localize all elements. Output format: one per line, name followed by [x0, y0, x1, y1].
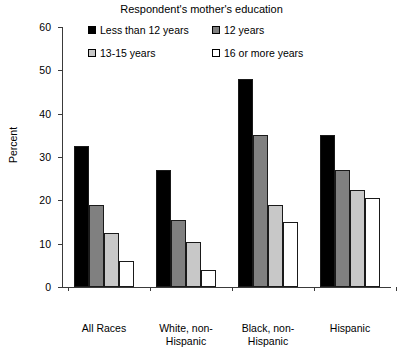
y-axis-tick: 40	[58, 114, 63, 115]
bar	[335, 170, 350, 287]
x-axis-line	[62, 287, 391, 288]
bar	[320, 135, 335, 287]
x-axis-tick	[232, 287, 233, 291]
plot-area: 0102030405060 All RacesWhite, non-Hispan…	[62, 27, 390, 287]
bar	[253, 135, 268, 287]
y-axis-tick: 60	[58, 27, 63, 28]
bar	[268, 205, 283, 287]
y-axis-tick: 30	[58, 157, 63, 158]
y-axis-tick-label: 40	[39, 108, 51, 120]
x-axis-category-label: Hispanic	[290, 322, 403, 335]
x-axis-category-label-line: Hispanic	[290, 322, 403, 335]
bar	[171, 220, 186, 287]
y-axis-tick: 0	[58, 287, 63, 288]
y-axis-tick: 20	[58, 200, 63, 201]
y-axis-tick-label: 20	[39, 194, 51, 206]
x-axis-tick	[314, 287, 315, 291]
y-axis-tick-label: 30	[39, 151, 51, 163]
y-axis-tick-label: 10	[39, 238, 51, 250]
y-axis-tick-label: 60	[39, 21, 51, 33]
bar	[283, 222, 298, 287]
bar	[238, 79, 253, 287]
x-axis-tick	[68, 287, 69, 291]
bar	[350, 190, 365, 288]
bar	[186, 242, 201, 288]
x-axis-tick	[150, 287, 151, 291]
y-axis-tick-label: 50	[39, 64, 51, 76]
bar	[365, 198, 380, 287]
bar	[156, 170, 171, 287]
x-axis-tick	[396, 287, 397, 291]
chart-title: Respondent's mother's education	[0, 3, 403, 15]
bar	[119, 261, 134, 287]
bar	[201, 270, 216, 287]
y-axis-tick: 50	[58, 70, 63, 71]
y-axis-tick-label: 0	[45, 281, 51, 293]
bar	[89, 205, 104, 287]
x-axis-category-label-line: Hispanic	[208, 335, 328, 348]
y-axis-title: Percent	[6, 0, 20, 290]
bar	[74, 146, 89, 287]
y-axis-tick: 10	[58, 244, 63, 245]
bar	[104, 233, 119, 287]
